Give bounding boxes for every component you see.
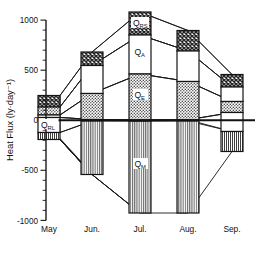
x-ticklabel-jul: Jul. xyxy=(133,224,146,234)
band-sep-qa xyxy=(221,87,243,102)
band-aug-qe xyxy=(177,82,199,120)
column-jun xyxy=(81,52,103,175)
band-may-qrs xyxy=(38,96,60,108)
x-ticklabel-jun: Jun. xyxy=(84,224,100,234)
x-ticklabel-aug: Aug. xyxy=(179,224,196,234)
band-jun-qrs xyxy=(81,52,103,66)
column-sep xyxy=(221,75,243,152)
y-ticklabel-1000: 1000 xyxy=(20,16,39,25)
band-sep-qe xyxy=(221,102,243,113)
y-axis-title: Heat Flux (ly·day⁻¹) xyxy=(4,79,15,161)
y-ticklabel-0: 0 xyxy=(33,116,38,125)
band-jun-qm xyxy=(81,121,103,175)
annotation-qe-sub: E xyxy=(141,95,145,101)
annotation-qrl-sub: RL xyxy=(48,125,56,131)
band-sep-qrs xyxy=(221,75,243,88)
band-aug-qrs xyxy=(177,31,199,52)
y-ticklabel-neg500: -500 xyxy=(22,166,39,175)
annotation-qa-sub: A xyxy=(141,52,145,58)
column-jul xyxy=(129,12,151,213)
band-aug-qm xyxy=(177,121,199,213)
chart-canvas: 1000 500 0 -500 -1000 Heat Flux (ly·day⁻… xyxy=(0,0,265,257)
band-aug-qa xyxy=(177,51,199,82)
heat-flux-chart: 1000 500 0 -500 -1000 Heat Flux (ly·day⁻… xyxy=(0,0,265,257)
column-aug xyxy=(177,31,199,214)
x-ticklabel-may: May xyxy=(41,224,58,234)
band-may-qm xyxy=(38,133,60,140)
column-may xyxy=(38,96,60,140)
band-may-qe xyxy=(38,107,60,115)
y-ticklabel-500: 500 xyxy=(24,66,38,75)
band-jun-qe xyxy=(81,94,103,120)
annotation-qrs-sub: RS xyxy=(140,23,148,29)
band-jun-qa xyxy=(81,66,103,94)
band-sep-qm xyxy=(221,132,243,152)
band-sep-qrl xyxy=(221,113,243,132)
x-ticklabel-sep: Sep. xyxy=(223,224,240,234)
annotation-qm-sub: M xyxy=(141,164,146,170)
y-ticklabel-neg1000: -1000 xyxy=(17,217,38,226)
